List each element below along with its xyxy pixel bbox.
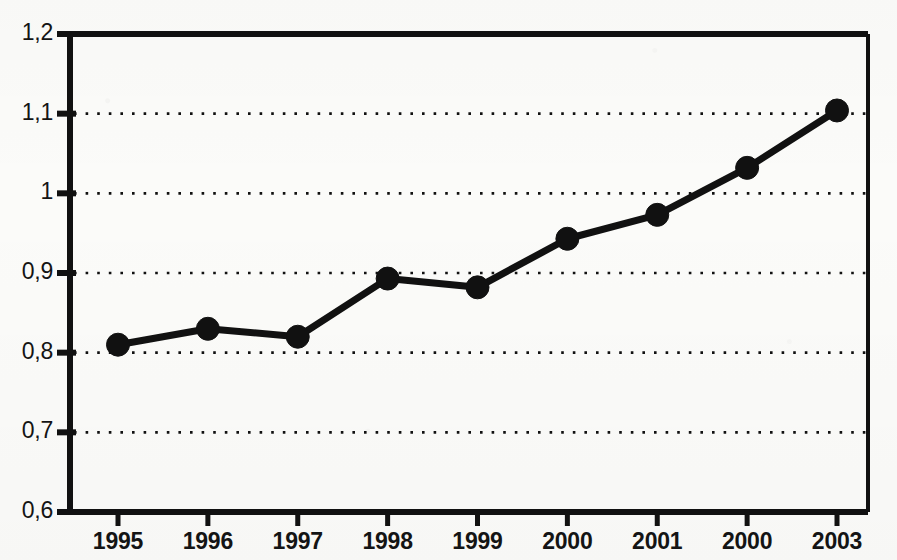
y-axis-tick-label: 1,2 (5, 19, 53, 46)
y-axis-tick-label: 0,8 (5, 338, 53, 365)
x-axis-tick-label: 2000 (522, 528, 612, 555)
series-line (118, 110, 837, 344)
data-point-marker (736, 156, 759, 179)
plot-area (0, 0, 897, 560)
data-markers (107, 99, 849, 356)
data-point-marker (826, 99, 849, 122)
data-point-marker (646, 203, 669, 226)
data-point-marker (196, 317, 219, 340)
line-chart-figure: 0,60,70,80,911,11,2 19951996199719981999… (0, 0, 897, 560)
y-axis-tick-label: 1 (5, 178, 53, 205)
data-point-marker (286, 325, 309, 348)
x-axis-tick-label: 2001 (612, 528, 702, 555)
data-point-marker (466, 276, 489, 299)
data-line (118, 110, 837, 344)
x-axis-tick-label: 2003 (792, 528, 882, 555)
data-point-marker (556, 227, 579, 250)
y-axis-ticks (57, 34, 76, 512)
x-axis-tick-label: 1995 (73, 528, 163, 555)
x-axis-tick-label: 1999 (433, 528, 523, 555)
y-axis-tick-label: 1,1 (5, 99, 53, 126)
data-point-marker (107, 333, 130, 356)
y-axis-tick-label: 0,6 (5, 497, 53, 524)
x-axis-tick-label: 1998 (343, 528, 433, 555)
data-point-marker (376, 267, 399, 290)
x-axis-tick-label: 2000 (702, 528, 792, 555)
y-axis-tick-label: 0,9 (5, 258, 53, 285)
x-axis-tick-label: 1997 (253, 528, 343, 555)
y-axis-tick-label: 0,7 (5, 417, 53, 444)
x-axis-tick-label: 1996 (163, 528, 253, 555)
